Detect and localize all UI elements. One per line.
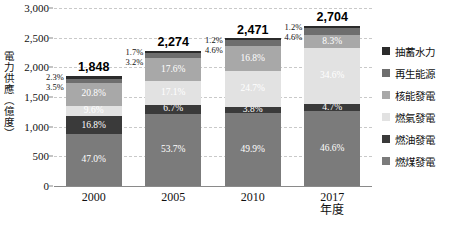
bar-segment: 46.6% <box>304 111 360 186</box>
bar-callout-labels: 1.7%3.2% <box>126 47 144 67</box>
legend-swatch-icon <box>382 91 390 99</box>
bar-segment: 53.7% <box>145 114 201 186</box>
bar-segment: 16.8% <box>66 116 122 134</box>
segment-value-label: 53.7% <box>161 145 186 155</box>
legend-item-1[interactable]: 抽蓄水力 <box>382 40 458 62</box>
legend-swatch-icon <box>382 157 390 165</box>
callout-upper: 1.7% <box>126 47 144 57</box>
segment-value-label: 9.6% <box>84 106 104 116</box>
x-axis-tick-label: 2000 <box>82 191 106 204</box>
x-axis-tick-sublabel: 年度 <box>320 204 344 217</box>
segment-value-label: 24.7% <box>240 84 265 94</box>
bar-total-label: 1,848 <box>78 60 109 74</box>
bar-segment: 9.6% <box>66 106 122 117</box>
segment-value-label: 34.6% <box>320 71 345 81</box>
bar-callout-labels: 1.2%4.6% <box>285 22 303 42</box>
legend-item-label: 燃氣發電 <box>395 110 435 125</box>
bar-segment: 20.8% <box>66 83 122 106</box>
callout-lower: 4.6% <box>285 32 303 42</box>
bar-callout-labels: 2.3%3.5% <box>46 72 64 92</box>
bar-segment: 16.8% <box>225 46 281 71</box>
callout-upper: 2.3% <box>46 72 64 82</box>
segment-value-label: 46.6% <box>320 144 345 154</box>
legend-item-label: 再生能源 <box>395 66 435 81</box>
segment-value-label: 20.8% <box>81 89 106 99</box>
y-axis-tick-mark <box>49 186 53 187</box>
x-axis-label-group: 2000 <box>82 191 106 204</box>
segment-value-label: 16.8% <box>81 121 106 131</box>
bar-callout-labels: 1.2%4.6% <box>205 35 223 55</box>
segment-value-label: 17.1% <box>161 88 186 98</box>
y-axis-tick-mark <box>49 67 53 68</box>
segment-value-label: 8.3% <box>322 37 342 47</box>
y-axis-title: 電力供應（億度） <box>0 0 17 190</box>
y-axis-tick-mark <box>49 126 53 127</box>
y-axis-tick-mark <box>49 97 53 98</box>
y-axis-tick-label: 1,000 <box>24 121 49 133</box>
segment-value-label: 6.7% <box>163 105 183 114</box>
bar-segment: 49.9% <box>225 113 281 186</box>
segment-value-label: 49.9% <box>240 145 265 155</box>
segment-value-label: 47.0% <box>81 155 106 165</box>
stacked-bar-chart: 電力供應（億度） 05001,0001,5002,0002,5003,00047… <box>0 0 459 225</box>
bar-segment: 6.7% <box>145 105 201 114</box>
x-axis-label-group: 2017年度 <box>320 191 344 218</box>
bar-total-label: 2,471 <box>237 23 268 37</box>
segment-value-label: 16.8% <box>240 54 265 64</box>
legend-swatch-icon <box>382 135 390 143</box>
bar-segment: 17.1% <box>145 81 201 104</box>
callout-lower: 3.5% <box>46 82 64 92</box>
plot-area: 05001,0001,5002,0002,5003,00047.0%16.8%9… <box>54 8 372 186</box>
legend-item-label: 抽蓄水力 <box>395 44 435 59</box>
bar-segment: 34.6% <box>304 48 360 104</box>
y-axis-tick-label: 3,000 <box>24 2 49 14</box>
bar-segment: 17.6% <box>145 58 201 82</box>
legend-item-label: 燃煤發電 <box>395 154 435 169</box>
x-axis-tick-label: 2010 <box>241 191 265 204</box>
x-axis-label-group: 2005 <box>161 191 185 204</box>
legend-item-4[interactable]: 燃氣發電 <box>382 106 458 128</box>
y-axis-tick-mark <box>49 156 53 157</box>
bar-segment: 4.7% <box>304 104 360 112</box>
bar-segment: 8.3% <box>304 35 360 48</box>
bar-total-label: 2,274 <box>158 35 189 49</box>
callout-upper: 1.2% <box>205 35 223 45</box>
bar-1[interactable]: 47.0%16.8%9.6%20.8%1,8482.3%3.5%2000 <box>66 76 122 186</box>
x-axis-tick-label: 2005 <box>161 191 185 204</box>
y-axis-tick-label: 2,500 <box>24 32 49 44</box>
y-axis-tick-mark <box>49 37 53 38</box>
x-axis-line <box>54 186 372 187</box>
segment-value-label: 4.7% <box>322 104 342 112</box>
bar-2[interactable]: 53.7%6.7%17.1%17.6%2,2741.7%3.2%2005 <box>145 51 201 186</box>
callout-lower: 4.6% <box>205 45 223 55</box>
y-axis-tick-mark <box>49 8 53 9</box>
y-axis-tick-label: 500 <box>33 150 50 162</box>
legend-item-label: 核能發電 <box>395 88 435 103</box>
bar-segment: 47.0% <box>66 134 122 186</box>
chart-legend: 抽蓄水力再生能源核能發電燃氣發電燃油發電燃煤發電 <box>382 40 458 172</box>
bar-total-label: 2,704 <box>317 10 348 24</box>
legend-swatch-icon <box>382 47 390 55</box>
legend-item-label: 燃油發電 <box>395 132 435 147</box>
segment-value-label: 17.6% <box>161 65 186 75</box>
bar-segment: 24.7% <box>225 71 281 107</box>
y-axis-tick-label: 1,500 <box>24 91 49 103</box>
bar-3[interactable]: 49.9%3.8%24.7%16.8%2,4711.2%4.6%2010 <box>225 39 281 186</box>
legend-swatch-icon <box>382 69 390 77</box>
legend-item-6[interactable]: 燃煤發電 <box>382 150 458 172</box>
legend-item-2[interactable]: 再生能源 <box>382 62 458 84</box>
legend-item-5[interactable]: 燃油發電 <box>382 128 458 150</box>
legend-swatch-icon <box>382 113 390 121</box>
bar-segment <box>225 40 281 47</box>
bar-4[interactable]: 46.6%4.7%34.6%8.3%2,7041.2%4.6%2017年度 <box>304 26 360 186</box>
x-axis-label-group: 2010 <box>241 191 265 204</box>
legend-item-3[interactable]: 核能發電 <box>382 84 458 106</box>
callout-upper: 1.2% <box>285 22 303 32</box>
callout-lower: 3.2% <box>126 57 144 67</box>
bar-segment <box>304 28 360 35</box>
